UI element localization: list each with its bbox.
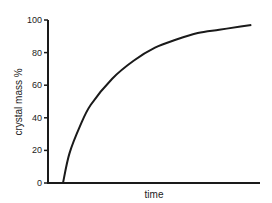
y-tick-label: 60 <box>32 80 42 90</box>
x-axis-label: time <box>145 189 164 200</box>
y-tick-label: 80 <box>32 48 42 58</box>
y-axis-label: crystal mass % <box>13 68 24 135</box>
y-tick-label: 100 <box>27 15 42 25</box>
y-tick-label: 0 <box>37 178 42 188</box>
y-ticks: 020406080100 <box>27 15 48 188</box>
y-tick-label: 20 <box>32 145 42 155</box>
chart: 020406080100 time crystal mass % <box>0 0 272 203</box>
y-tick-label: 40 <box>32 113 42 123</box>
crystal-mass-curve <box>63 25 251 183</box>
